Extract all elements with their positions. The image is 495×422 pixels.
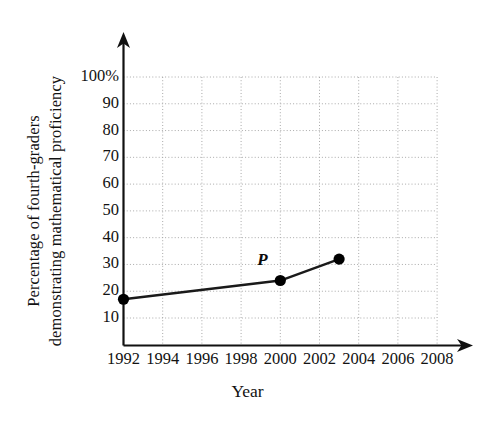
axis-lines	[117, 32, 473, 352]
series-line	[124, 259, 340, 299]
chart-figure: Percentage of fourth-graders demonstrati…	[0, 0, 495, 422]
data-point-2000	[275, 275, 286, 286]
x-axis-title: Year	[0, 381, 495, 402]
annotation-label-P: P	[257, 250, 267, 270]
plot-area	[0, 0, 495, 422]
data-point-2003	[334, 253, 345, 264]
data-series	[118, 253, 345, 304]
data-point-1992	[118, 294, 129, 305]
